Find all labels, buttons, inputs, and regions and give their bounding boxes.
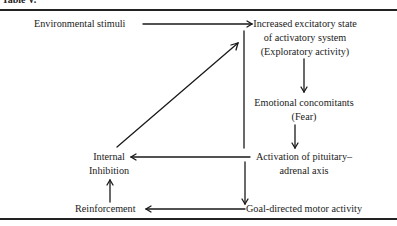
arrow-inhibition-to-excitatory xyxy=(117,43,238,147)
arrow-activation-to-inhibition xyxy=(131,154,250,160)
arrow-environment-to-excitatory xyxy=(143,21,252,27)
arrow-excitatory-to-emotional xyxy=(301,59,307,92)
arrow-emotional-to-activation xyxy=(292,125,298,148)
diagram-arrows xyxy=(0,0,397,226)
arrow-reinforcement-to-inhibition xyxy=(107,180,113,202)
arrow-goal-to-reinforcement xyxy=(146,206,245,212)
arrow-to-goal-directed xyxy=(242,162,248,204)
